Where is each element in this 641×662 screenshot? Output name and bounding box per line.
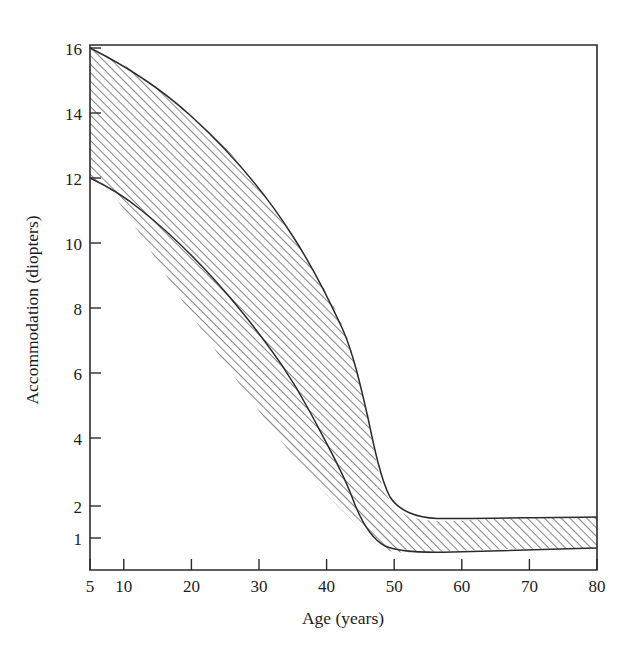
y-tick-label: 6: [74, 365, 83, 384]
y-tick-label: 1: [74, 530, 83, 549]
x-tick-label: 40: [318, 577, 335, 596]
x-axis-title: Age (years): [302, 608, 384, 628]
y-tick-label: 16: [65, 40, 82, 59]
x-tick-label: 20: [183, 577, 200, 596]
y-tick-label: 4: [74, 430, 83, 449]
y-tick-label: 8: [74, 300, 83, 319]
y-tick-label: 2: [74, 498, 83, 517]
accommodation-vs-age-chart: 16 14 12 10 8 6 4 2 1 5 10 20 30 40 50 6…: [0, 0, 641, 662]
y-tick-label: 12: [65, 170, 82, 189]
y-axis-title: Accommodation (diopters): [22, 215, 42, 404]
x-tick-label: 60: [453, 577, 470, 596]
x-tick-label: 80: [589, 577, 606, 596]
x-tick-label: 30: [251, 577, 268, 596]
y-tick-label: 14: [65, 105, 83, 124]
x-tick-label: 10: [115, 577, 132, 596]
chart-figure: 16 14 12 10 8 6 4 2 1 5 10 20 30 40 50 6…: [0, 0, 641, 662]
x-tick-label: 5: [86, 577, 95, 596]
x-tick-label: 70: [521, 577, 538, 596]
y-tick-label: 10: [65, 235, 82, 254]
x-tick-label: 50: [386, 577, 403, 596]
